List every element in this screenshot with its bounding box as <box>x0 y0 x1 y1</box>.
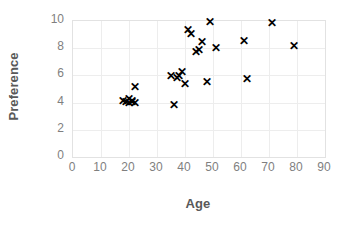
gridline-horizontal <box>73 75 325 76</box>
plot-area: ✕✕✕✕✕✕✕✕✕✕✕✕✕✕✕✕✕✕✕✕✕✕✕✕✕✕ <box>72 20 326 158</box>
data-point-marker: ✕ <box>205 17 216 28</box>
y-axis-title-text: Preference <box>6 52 21 120</box>
data-point-marker: ✕ <box>180 79 191 90</box>
y-tick-label: 8 <box>30 39 64 53</box>
y-tick-label: 0 <box>30 148 64 162</box>
y-tick-label: 4 <box>30 94 64 108</box>
y-axis-title: Preference <box>0 0 26 172</box>
x-tick-label: 30 <box>143 160 169 174</box>
x-tick-label: 20 <box>115 160 141 174</box>
x-tick-label: 60 <box>227 160 253 174</box>
x-tick-label: 90 <box>311 160 337 174</box>
gridline-vertical <box>157 21 158 157</box>
data-point-marker: ✕ <box>241 74 252 85</box>
x-tick-label: 10 <box>87 160 113 174</box>
data-point-marker: ✕ <box>129 98 140 109</box>
y-tick-label: 10 <box>30 12 64 26</box>
gridline-vertical <box>101 21 102 157</box>
data-point-marker: ✕ <box>202 77 213 88</box>
data-point-marker: ✕ <box>129 82 140 93</box>
gridline-horizontal <box>73 103 325 104</box>
data-point-marker: ✕ <box>210 43 221 54</box>
data-point-marker: ✕ <box>266 18 277 29</box>
data-point-marker: ✕ <box>196 37 207 48</box>
gridline-horizontal <box>73 130 325 131</box>
y-tick-label: 6 <box>30 66 64 80</box>
x-axis-title: Age <box>72 196 324 211</box>
x-tick-label: 40 <box>171 160 197 174</box>
data-point-marker: ✕ <box>168 100 179 111</box>
x-tick-label: 0 <box>59 160 85 174</box>
x-tick-label: 50 <box>199 160 225 174</box>
gridline-vertical <box>269 21 270 157</box>
data-point-marker: ✕ <box>238 36 249 47</box>
scatter-chart: Preference ✕✕✕✕✕✕✕✕✕✕✕✕✕✕✕✕✕✕✕✕✕✕✕✕✕✕ 01… <box>0 0 349 232</box>
x-tick-label: 70 <box>255 160 281 174</box>
data-point-marker: ✕ <box>185 29 196 40</box>
data-point-marker: ✕ <box>289 41 300 52</box>
y-tick-label: 2 <box>30 121 64 135</box>
x-tick-label: 80 <box>283 160 309 174</box>
